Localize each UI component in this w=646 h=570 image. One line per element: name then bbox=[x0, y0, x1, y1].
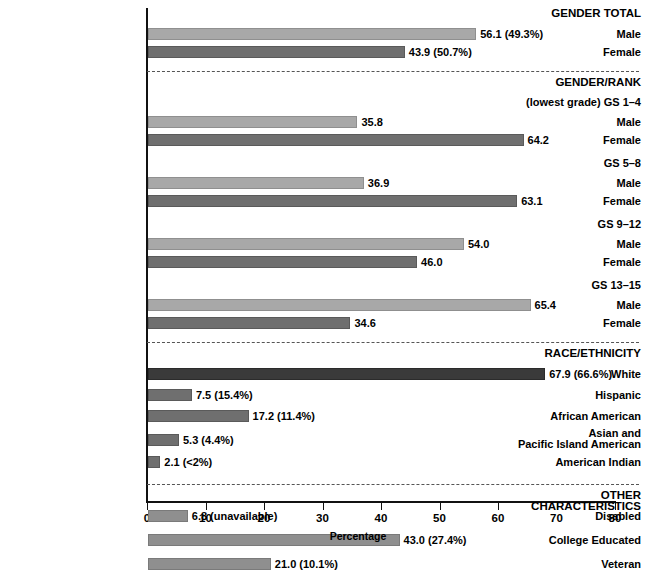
x-tick-0 bbox=[147, 503, 148, 510]
bar-row-label: African American bbox=[503, 411, 646, 422]
group-label: GS 9–12 bbox=[503, 219, 646, 230]
bar bbox=[148, 510, 188, 522]
bar bbox=[148, 317, 350, 329]
bar-row-label: Veteran bbox=[503, 559, 646, 570]
bar-row-label: Female bbox=[503, 47, 646, 58]
bar-value-label: 6.8 (unavailable) bbox=[192, 510, 278, 522]
bar bbox=[148, 368, 545, 380]
x-axis-title-text: Percentage bbox=[330, 530, 387, 542]
bar-value-label: 65.4 bbox=[535, 299, 556, 311]
section-heading: GENDER TOTAL bbox=[503, 8, 646, 19]
bar-value-label: 56.1 (49.3%) bbox=[480, 28, 543, 40]
bar bbox=[148, 456, 160, 468]
bar-value-label: 34.6 bbox=[354, 317, 375, 329]
bar bbox=[148, 299, 531, 311]
bar bbox=[148, 116, 357, 128]
bar-value-label: 2.1 (<2%) bbox=[164, 456, 212, 468]
section-separator bbox=[147, 484, 639, 485]
x-tick-label-40: 40 bbox=[375, 512, 388, 524]
bar-row-label: Female bbox=[503, 257, 646, 268]
bar-value-label: 64.2 bbox=[528, 134, 549, 146]
bar-value-label: 17.2 (11.4%) bbox=[253, 410, 315, 422]
bar bbox=[148, 410, 249, 422]
section-heading: GENDER/RANK bbox=[503, 77, 646, 88]
bar-row-label: Male bbox=[503, 239, 646, 250]
bar-row-label: Disabled bbox=[503, 511, 646, 522]
bar-value-label: 36.9 bbox=[368, 177, 389, 189]
x-tick-40 bbox=[381, 503, 382, 510]
bar-value-label: 21.0 (10.1%) bbox=[275, 558, 338, 570]
bar-row-label: Asian and Pacific Island American bbox=[503, 428, 646, 450]
bar bbox=[148, 134, 524, 146]
bar bbox=[148, 389, 192, 401]
bar-row-label: Hispanic bbox=[503, 390, 646, 401]
bar bbox=[148, 46, 405, 58]
section-separator bbox=[147, 71, 639, 72]
bar-value-label: 7.5 (15.4%) bbox=[196, 389, 253, 401]
bar bbox=[148, 195, 517, 207]
section-separator bbox=[147, 342, 639, 343]
bar-value-label: 5.3 (4.4%) bbox=[183, 434, 234, 446]
x-tick-label-50: 50 bbox=[433, 512, 446, 524]
group-label: GS 5–8 bbox=[503, 158, 646, 169]
bar-value-label: 67.9 (66.6%) bbox=[549, 368, 612, 380]
x-tick-50 bbox=[440, 503, 441, 510]
bar-value-label: 63.1 bbox=[521, 195, 542, 207]
bar-value-label: 43.9 (50.7%) bbox=[409, 46, 472, 58]
group-label: GS 13–15 bbox=[503, 280, 646, 291]
bar-row-label: Male bbox=[503, 117, 646, 128]
x-tick-label-30: 30 bbox=[316, 512, 329, 524]
bar-row-label: Female bbox=[503, 318, 646, 329]
y-axis-line bbox=[146, 8, 148, 502]
x-tick-20 bbox=[264, 503, 265, 510]
group-label: (lowest grade) GS 1–4 bbox=[503, 97, 646, 108]
bar-value-label: 35.8 bbox=[361, 116, 382, 128]
bar bbox=[148, 177, 364, 189]
bar-value-label: 46.0 bbox=[421, 256, 442, 268]
bar bbox=[148, 256, 417, 268]
section-heading: OTHER CHARACTERISTICS bbox=[503, 490, 646, 512]
section-heading: RACE/ETHNICITY bbox=[503, 348, 646, 359]
x-tick-30 bbox=[323, 503, 324, 510]
bar-row-label: American Indian bbox=[503, 457, 646, 468]
x-tick-60 bbox=[498, 503, 499, 510]
bar bbox=[148, 558, 271, 570]
bar bbox=[148, 434, 179, 446]
bar-value-label: 54.0 bbox=[468, 238, 489, 250]
bar bbox=[148, 238, 464, 250]
x-tick-10 bbox=[206, 503, 207, 510]
bar-row-label: Female bbox=[503, 135, 646, 146]
x-axis-title: Percentage bbox=[0, 530, 646, 542]
bar bbox=[148, 28, 476, 40]
bar-row-label: Male bbox=[503, 178, 646, 189]
